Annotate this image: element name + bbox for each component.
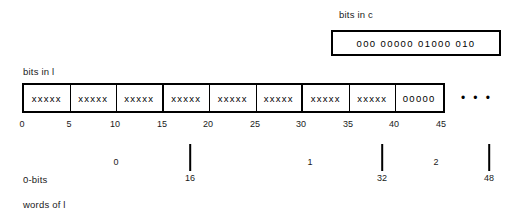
- bit-group-cell: xxxxx: [257, 85, 304, 111]
- word-index-label: 0: [113, 157, 118, 167]
- bit-ruler-tick-label: 0: [19, 119, 24, 129]
- word-index-label: 2: [433, 157, 438, 167]
- word-boundary-tick: [381, 144, 383, 171]
- word-boundary-tick-label: 32: [377, 173, 387, 183]
- bit-ruler-tick-label: 5: [66, 119, 71, 129]
- bit-group-value: 00000: [403, 93, 436, 104]
- bit-group-cell: xxxxx: [24, 85, 71, 111]
- bit-group-cell: xxxxx: [303, 85, 350, 111]
- word-boundary-tick-label: 16: [185, 173, 195, 183]
- bit-ruler-tick-label: 45: [436, 119, 446, 129]
- bit-ruler-tick-label: 10: [110, 119, 120, 129]
- bit-group-cell: xxxxx: [350, 85, 397, 111]
- bit-ruler-tick-label: 25: [250, 119, 260, 129]
- bits-in-c-value: 000 00000 01000 010: [356, 38, 475, 49]
- bit-group-value: xxxxx: [124, 93, 154, 104]
- word-boundary-tick: [488, 144, 490, 171]
- word-boundary-tick-label: 48: [484, 173, 494, 183]
- words-of-l-row-label: words of l: [23, 199, 66, 210]
- bit-group-value: xxxxx: [32, 93, 62, 104]
- bits-in-c-box: 000 00000 01000 010: [331, 30, 501, 56]
- bit-group-cell: 00000: [396, 85, 443, 111]
- bit-group-value: xxxxx: [218, 93, 248, 104]
- bit-ruler-tick-label: 40: [389, 119, 399, 129]
- bits-in-c-label: bits in c: [339, 9, 373, 20]
- word-boundary-tick: [189, 144, 191, 171]
- diagram-canvas: bits in c 000 00000 01000 010 bits in l …: [0, 0, 522, 222]
- bit-group-value: xxxxx: [264, 93, 294, 104]
- bit-group-cell: xxxxx: [117, 85, 164, 111]
- bit-group-value: xxxxx: [357, 93, 387, 104]
- bit-ruler-tick-label: 15: [157, 119, 167, 129]
- bit-ruler-tick-label: 20: [203, 119, 213, 129]
- word-index-label: 1: [307, 157, 312, 167]
- bit-ruler-tick-label: 30: [296, 119, 306, 129]
- bits-in-l-label: bits in l: [23, 66, 54, 77]
- zero-bits-row-label: 0-bits: [23, 174, 47, 185]
- bit-ruler-tick-label: 35: [343, 119, 353, 129]
- bit-group-value: xxxxx: [78, 93, 108, 104]
- bit-group-value: xxxxx: [311, 93, 341, 104]
- bits-in-l-ellipsis: • • •: [461, 91, 492, 105]
- bits-in-l-array: xxxxxxxxxxxxxxxxxxxxxxxxxxxxxxxxxxxxxxxx…: [22, 83, 445, 113]
- bit-group-cell: xxxxx: [164, 85, 211, 111]
- bit-group-cell: xxxxx: [210, 85, 257, 111]
- bit-group-cell: xxxxx: [71, 85, 118, 111]
- bit-group-value: xxxxx: [171, 93, 201, 104]
